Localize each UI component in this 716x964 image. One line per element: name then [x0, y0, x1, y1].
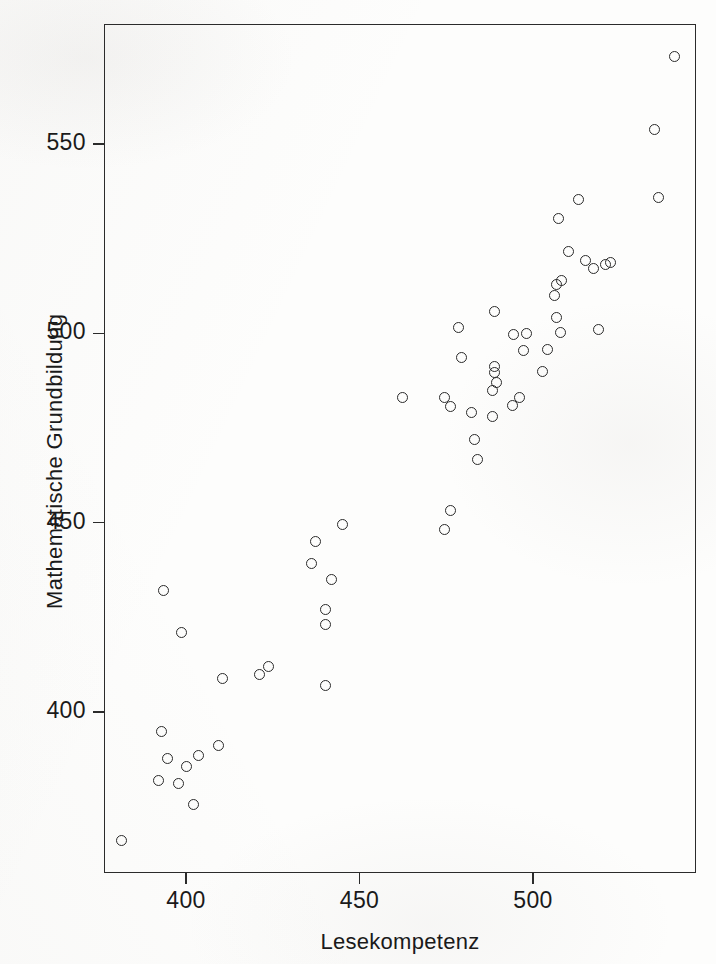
y-axis-title: Mathematische Grundbildung — [42, 313, 68, 608]
data-point — [573, 194, 584, 205]
y-axis-tick — [93, 522, 104, 524]
x-axis-tick-label: 400 — [164, 887, 208, 914]
x-axis-tick — [359, 873, 361, 884]
data-point — [563, 246, 574, 257]
data-point — [605, 257, 616, 268]
data-point — [469, 434, 480, 445]
data-point — [653, 192, 664, 203]
x-axis-tick-label: 500 — [511, 887, 555, 914]
plot-area-frame — [104, 24, 696, 873]
data-point — [337, 519, 348, 530]
data-point — [320, 604, 331, 615]
data-point — [588, 263, 599, 274]
data-point — [507, 400, 518, 411]
data-point — [521, 328, 532, 339]
x-axis-tick — [532, 873, 534, 884]
data-point — [326, 574, 337, 585]
y-axis-tick — [93, 143, 104, 145]
data-point — [320, 619, 331, 630]
x-axis-tick — [185, 873, 187, 884]
data-point — [320, 680, 331, 691]
data-point — [508, 329, 519, 340]
data-point — [162, 753, 173, 764]
y-axis-tick-label: 550 — [38, 129, 86, 156]
x-axis-title: Lesekompetenz — [104, 929, 696, 955]
data-point — [153, 775, 164, 786]
y-axis-tick — [93, 711, 104, 713]
x-axis-tick-label: 450 — [338, 887, 382, 914]
y-axis-tick — [93, 333, 104, 335]
data-point — [181, 761, 192, 772]
data-point — [173, 778, 184, 789]
data-point — [453, 322, 464, 333]
scatter-plot-figure: 400450500400450500550 Lesekompetenz Math… — [0, 0, 716, 964]
data-point — [487, 411, 498, 422]
data-point — [193, 750, 204, 761]
data-point — [156, 726, 167, 737]
data-point — [537, 366, 548, 377]
y-axis-tick-label: 400 — [38, 697, 86, 724]
data-point — [445, 505, 456, 516]
